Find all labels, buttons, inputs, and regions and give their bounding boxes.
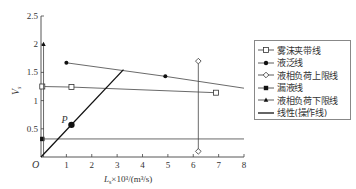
square-open-marker xyxy=(214,90,219,95)
square-open-marker xyxy=(69,85,74,90)
legend-item-entrainment: 雾沫夹带线 xyxy=(255,44,321,56)
legend-label: 漏液线 xyxy=(277,81,303,94)
series-layer xyxy=(40,42,244,157)
square-open-marker-icon xyxy=(258,45,274,55)
series-line xyxy=(41,70,123,157)
y-tick-label: 1 xyxy=(34,96,39,106)
series-1 xyxy=(64,61,244,88)
legend-label: 液泛线 xyxy=(277,56,303,69)
legend-label: 液相负荷下限线 xyxy=(277,94,338,107)
y-tick-label: 2 xyxy=(34,39,39,49)
x-tick-label: 7 xyxy=(216,160,221,170)
diamond-open-marker xyxy=(196,58,202,64)
x-tick-label: 5 xyxy=(166,160,171,170)
labels-layer: OLs×10³/(m³/s)VsP xyxy=(10,86,152,185)
circle-filled-marker xyxy=(163,74,167,78)
line-marker-icon xyxy=(258,108,274,118)
x-tick-label: 4 xyxy=(140,160,145,170)
series-2 xyxy=(196,58,202,154)
x-axis-label: Ls×10³/(m³/s) xyxy=(103,174,152,185)
series-0 xyxy=(40,84,219,95)
series-line xyxy=(66,63,244,88)
legend: 雾沫夹带线 液泛线 液相负荷上限线 漏液线 液相负荷下限线 线性(操作线) xyxy=(254,40,351,120)
circle-filled-marker-icon xyxy=(258,58,274,68)
series-line xyxy=(42,87,216,93)
origin-label: O xyxy=(32,159,39,170)
square-open-marker xyxy=(40,84,45,89)
point-p-marker xyxy=(68,122,74,128)
diamond-open-marker-icon xyxy=(258,70,274,80)
square-filled-marker-icon xyxy=(258,83,274,93)
point-p-label: P xyxy=(60,114,67,125)
legend-item-operating-line: 线性(操作线) xyxy=(255,107,327,119)
legend-label: 雾沫夹带线 xyxy=(277,44,321,57)
legend-item-liquid-upper-limit: 液相负荷上限线 xyxy=(255,69,338,81)
x-tick-label: 3 xyxy=(115,160,120,170)
x-tick-label: 1 xyxy=(64,160,69,170)
legend-item-weeping: 漏液线 xyxy=(255,82,303,94)
legend-label: 线性(操作线) xyxy=(277,106,327,119)
x-tick-label: 8 xyxy=(242,160,247,170)
triangle-filled-marker-icon xyxy=(258,95,274,105)
legend-item-flooding: 液泛线 xyxy=(255,57,303,69)
series-5 xyxy=(41,70,123,157)
y-tick-label: 1.5 xyxy=(27,67,39,77)
legend-item-liquid-lower-limit: 液相负荷下限线 xyxy=(255,94,338,106)
legend-label: 液相负荷上限线 xyxy=(277,69,338,82)
y-tick-label: 0.5 xyxy=(27,124,39,134)
x-tick-label: 2 xyxy=(90,160,95,170)
diamond-open-marker xyxy=(196,149,202,155)
y-tick-label: 2.5 xyxy=(27,11,39,21)
circle-filled-marker xyxy=(64,61,68,65)
y-axis-label: Vs xyxy=(10,86,22,95)
series-3 xyxy=(40,137,244,141)
x-tick-label: 6 xyxy=(191,160,196,170)
